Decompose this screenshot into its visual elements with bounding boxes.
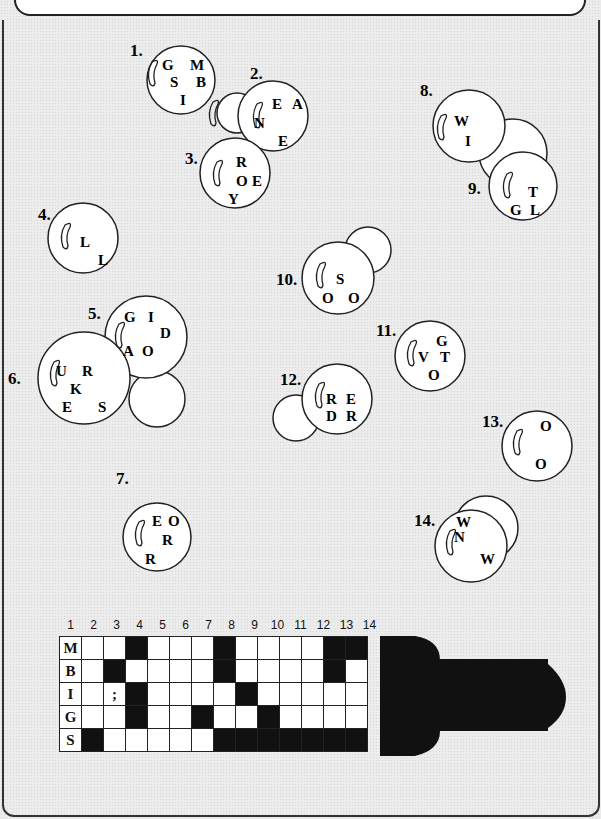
grid-cell[interactable] xyxy=(280,683,302,706)
svg-text:S: S xyxy=(98,399,106,415)
grid-cell[interactable] xyxy=(82,683,104,706)
grid-cell[interactable] xyxy=(170,660,192,683)
svg-text:O: O xyxy=(236,173,248,189)
col-num: 5 xyxy=(151,618,174,632)
black-cell xyxy=(214,660,236,683)
black-cell xyxy=(126,637,148,660)
col-num: 3 xyxy=(105,618,128,632)
svg-text:14.: 14. xyxy=(414,511,435,530)
svg-text:O: O xyxy=(142,343,154,359)
black-cell xyxy=(258,706,280,729)
grid-cell[interactable] xyxy=(170,706,192,729)
grid-cell[interactable] xyxy=(280,637,302,660)
svg-text:O: O xyxy=(322,290,334,306)
grid-cell[interactable] xyxy=(192,660,214,683)
svg-text:N: N xyxy=(454,529,465,545)
grid-cell[interactable] xyxy=(126,660,148,683)
grid-cell[interactable] xyxy=(236,637,258,660)
col-num: 7 xyxy=(197,618,220,632)
col-num: 13 xyxy=(335,618,358,632)
grid-cell[interactable] xyxy=(148,706,170,729)
grid-cell[interactable] xyxy=(302,660,324,683)
grid-cell[interactable] xyxy=(280,706,302,729)
grid-cell[interactable] xyxy=(170,637,192,660)
svg-text:12.: 12. xyxy=(280,370,301,389)
grid-cell[interactable] xyxy=(104,729,126,752)
svg-text:K: K xyxy=(70,381,82,397)
row-label: B xyxy=(60,660,82,683)
answer-grid: MBI;GS xyxy=(59,636,368,752)
grid-row: G xyxy=(60,706,368,729)
grid-cell[interactable] xyxy=(192,637,214,660)
grid-cell[interactable] xyxy=(170,683,192,706)
grid-cell[interactable] xyxy=(148,637,170,660)
grid-cell[interactable] xyxy=(258,660,280,683)
grid-cell[interactable] xyxy=(148,683,170,706)
black-cell xyxy=(324,660,346,683)
black-cell xyxy=(346,729,368,752)
grid-row: B xyxy=(60,660,368,683)
grid-cell[interactable] xyxy=(214,683,236,706)
row-label: I xyxy=(60,683,82,706)
black-cell xyxy=(126,706,148,729)
black-cell xyxy=(258,729,280,752)
svg-text:R: R xyxy=(346,408,357,424)
grid-cell[interactable] xyxy=(82,706,104,729)
grid-cell[interactable] xyxy=(214,706,236,729)
grid-cell[interactable] xyxy=(346,706,368,729)
svg-text:R: R xyxy=(82,363,93,379)
svg-text:9.: 9. xyxy=(468,179,481,198)
grid-cell[interactable] xyxy=(170,729,192,752)
grid-cell[interactable] xyxy=(236,660,258,683)
svg-text:7.: 7. xyxy=(116,469,129,488)
svg-text:2.: 2. xyxy=(250,64,263,83)
grid-cell[interactable] xyxy=(346,660,368,683)
grid-cell[interactable] xyxy=(148,660,170,683)
grid-cell[interactable] xyxy=(258,683,280,706)
svg-text:I: I xyxy=(465,133,471,149)
grid-cell[interactable] xyxy=(192,729,214,752)
grid-cell[interactable] xyxy=(280,660,302,683)
svg-text:U: U xyxy=(56,363,67,379)
svg-text:I: I xyxy=(180,92,186,108)
grid-cell[interactable] xyxy=(148,729,170,752)
grid-cell[interactable] xyxy=(82,637,104,660)
black-cell xyxy=(346,637,368,660)
col-num: 2 xyxy=(82,618,105,632)
grid-cell[interactable] xyxy=(258,637,280,660)
col-num: 12 xyxy=(312,618,335,632)
col-num: 6 xyxy=(174,618,197,632)
svg-text:T: T xyxy=(528,184,538,200)
svg-text:O: O xyxy=(535,456,547,472)
svg-text:E: E xyxy=(346,391,356,407)
row-label: G xyxy=(60,706,82,729)
grid-cell[interactable] xyxy=(346,683,368,706)
grid-cell[interactable] xyxy=(104,637,126,660)
black-cell xyxy=(280,729,302,752)
grid-cell[interactable] xyxy=(324,706,346,729)
black-cell xyxy=(236,729,258,752)
svg-text:O: O xyxy=(540,418,552,434)
svg-text:E: E xyxy=(252,173,262,189)
svg-text:4.: 4. xyxy=(38,205,51,224)
grid-cell[interactable] xyxy=(104,706,126,729)
col-num: 8 xyxy=(220,618,243,632)
grid-cell[interactable] xyxy=(192,683,214,706)
svg-text:L: L xyxy=(98,252,108,268)
grid-cell[interactable] xyxy=(302,683,324,706)
svg-text:I: I xyxy=(148,309,154,325)
svg-text:D: D xyxy=(160,325,171,341)
grid-cell[interactable] xyxy=(302,637,324,660)
grid-cell[interactable]: ; xyxy=(104,683,126,706)
col-num: 1 xyxy=(59,618,82,632)
grid-cell[interactable] xyxy=(302,706,324,729)
svg-text:D: D xyxy=(326,408,337,424)
grid-cell[interactable] xyxy=(324,683,346,706)
grid-cell[interactable] xyxy=(126,729,148,752)
grid-cell[interactable] xyxy=(236,706,258,729)
col-num: 9 xyxy=(243,618,266,632)
svg-text:L: L xyxy=(80,234,90,250)
svg-text:E: E xyxy=(62,399,72,415)
svg-text:M: M xyxy=(190,57,204,73)
grid-cell[interactable] xyxy=(82,660,104,683)
